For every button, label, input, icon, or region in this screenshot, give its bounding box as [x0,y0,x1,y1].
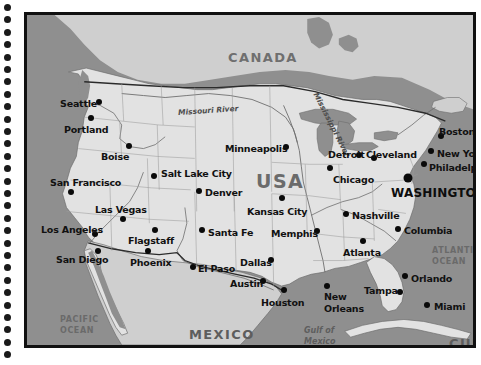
city-dot-miami[interactable] [424,302,430,308]
city-dot-denver[interactable] [196,188,202,194]
ocean-label: PACIFICOCEAN [60,315,99,337]
city-label-san-francisco[interactable]: San Francisco [50,178,121,188]
city-dot-el-paso[interactable] [190,264,196,270]
city-label-washington[interactable]: WASHINGTON [391,187,476,199]
city-label-flagstaff[interactable]: Flagstaff [128,236,174,246]
city-dot-atlanta[interactable] [360,238,366,244]
binding-hole [4,29,11,36]
city-label-seattle[interactable]: Seattle [60,99,97,109]
binding-hole [4,4,11,11]
city-dot-new-orleans[interactable] [324,283,330,289]
city-dot-washington[interactable] [404,174,413,183]
binding-hole [4,54,11,61]
binding-hole [4,240,11,247]
city-dot-portland[interactable] [88,115,94,121]
binding-hole [4,165,11,172]
city-dot-santa-fe[interactable] [199,227,205,233]
city-dot-kansas-city[interactable] [279,195,285,201]
city-label-nashville[interactable]: Nashville [352,211,399,221]
city-dot-chicago[interactable] [327,165,333,171]
city-label-memphis[interactable]: Memphis [271,229,318,239]
city-dot-houston[interactable] [281,287,287,293]
binding-hole [4,41,11,48]
city-label-el-paso[interactable]: El Paso [198,264,235,274]
binding-hole [4,314,11,321]
city-label-las-vegas[interactable]: Las Vegas [95,205,147,215]
ocean-label: ATLANTICOCEAN [432,246,476,268]
binding-hole [4,103,11,110]
city-dot-san-francisco[interactable] [68,189,74,195]
city-label-san-diego[interactable]: San Diego [56,255,108,265]
city-label-new-orleans[interactable]: NewOrleans [324,292,364,313]
binding-hole [4,351,11,358]
binding-hole [4,289,11,296]
city-label-chicago[interactable]: Chicago [333,175,374,185]
city-dot-nashville[interactable] [343,211,349,217]
city-dot-boise[interactable] [126,143,132,149]
lake-ontario [374,131,398,141]
city-dot-las-vegas[interactable] [120,216,126,222]
city-label-houston[interactable]: Houston [261,298,304,308]
city-label-philadelphia[interactable]: Philadelphia [429,163,476,173]
binding-hole [4,339,11,346]
city-label-los-angeles[interactable]: Los Angeles [41,225,103,235]
city-label-salt-lake-city[interactable]: Salt Lake City [161,169,232,179]
binding-hole [4,302,11,309]
binding-hole [4,264,11,271]
city-dot-flagstaff[interactable] [152,227,158,233]
city-label-columbia[interactable]: Columbia [404,226,452,236]
city-label-atlanta[interactable]: Atlanta [343,248,381,258]
city-dot-philadelphia[interactable] [421,161,427,167]
binding-hole [4,116,11,123]
city-dot-orlando[interactable] [402,273,408,279]
city-label-denver[interactable]: Denver [205,188,242,198]
binding-hole [4,202,11,209]
city-label-boston[interactable]: Boston [439,127,475,137]
binding-hole [4,215,11,222]
spiral-binding [0,0,22,365]
binding-hole [4,78,11,85]
city-dot-phoenix[interactable] [145,248,151,254]
city-label-santa-fe[interactable]: Santa Fe [208,228,253,238]
city-label-dallas[interactable]: Dallas [240,258,272,268]
city-label-cleveland[interactable]: Cleveland [366,150,417,160]
city-dot-new-york[interactable] [428,148,434,154]
city-label-orlando[interactable]: Orlando [411,274,452,284]
binding-hole [4,140,11,147]
city-label-portland[interactable]: Portland [64,125,108,135]
city-label-phoenix[interactable]: Phoenix [130,258,171,268]
binding-hole [4,16,11,23]
binding-hole [4,326,11,333]
map-frame[interactable]: CANADAUSAMEXICOCUBAPACIFICOCEANATLANTICO… [24,12,476,348]
notebook-page: CANADAUSAMEXICOCUBAPACIFICOCEANATLANTICO… [0,0,481,365]
binding-hole [4,190,11,197]
gulf-label: Gulf ofMexico [304,326,336,348]
country-label-cuba: CUBA [449,337,476,348]
country-label-usa: USA [256,172,304,191]
binding-hole [4,252,11,259]
city-label-miami[interactable]: Miami [434,302,465,312]
city-dot-tampa[interactable] [397,289,403,295]
city-label-detroit[interactable]: Detroit [328,150,364,160]
binding-hole [4,227,11,234]
binding-hole [4,153,11,160]
city-label-new-york[interactable]: New York [437,149,476,159]
binding-hole [4,91,11,98]
binding-hole [4,128,11,135]
city-label-austin[interactable]: Austin [230,279,263,289]
city-label-minneapolis[interactable]: Minneapolis [225,144,287,154]
city-dot-columbia[interactable] [395,226,401,232]
binding-hole [4,66,11,73]
city-label-kansas-city[interactable]: Kansas City [247,207,307,217]
city-label-tampa[interactable]: Tampa [364,286,398,296]
city-label-boise[interactable]: Boise [101,152,129,162]
city-dot-salt-lake-city[interactable] [151,173,157,179]
country-label-canada: CANADA [228,51,298,64]
binding-hole [4,178,11,185]
binding-hole [4,277,11,284]
country-label-mexico: MEXICO [189,328,255,341]
